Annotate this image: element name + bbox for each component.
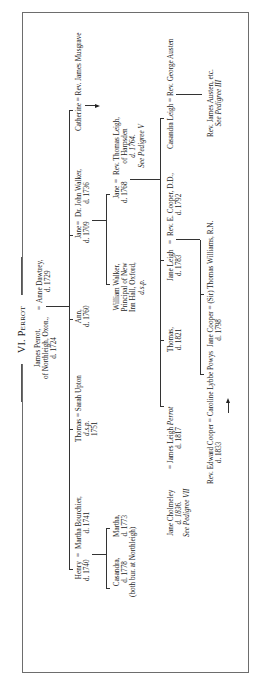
pedigree-page: VI. Perrot James Perrot, of Northleigh, … [0,0,262,697]
person-thomas-perrot: Thomas = Sarah Upton d.s.p. 1751 [75,375,100,442]
arrow-down-icon [95,104,100,108]
person-rev-james-austen: Rev. James Austen, etc. See Pedigree III [207,69,223,137]
connector-gen1-drop [46,306,69,307]
person-james-leigh-perrot: = James Leigh Perrot d. 1817 [167,407,183,469]
connector-jane-walker [69,235,73,236]
page-title: VI. Perrot [16,302,27,357]
connector-henry-drop [92,554,106,555]
connector-cooper-children-bar [200,240,201,375]
marriage-sign-henry-martha: = [75,553,83,557]
connector-edward-cooper-descent [228,403,229,413]
connector-walker-children-bar [106,195,107,285]
person-dr-john-walker: Dr. John Walker, d. 1736 [75,169,91,217]
connector-casandra-leigh [160,118,164,119]
connector-martha [106,528,110,529]
connector-leigh-drop [130,179,160,180]
person-jane-leigh-senior: Jane d. 1768 [113,181,129,203]
connector-gen2-sibling-bar [69,111,70,570]
person-anne-dawtrey: Anne Dawtrey, d. 1729 [36,260,52,303]
person-henry: Henry d. 1740 [75,559,91,581]
connector-jane-leigh [160,260,164,261]
connector-thomas [69,429,73,430]
person-martha-bourchier: Martha Bourchier, d. 1741 [75,496,91,549]
person-ann: Ann, d. 1760 [75,305,91,327]
person-jane-cholmeley: Jane Cholmeley d. 1836. See Pedigree VII [167,489,192,537]
connector-henry [69,569,73,570]
connector-ann [69,319,73,320]
marriage-sign-perrot-dawtrey: = [36,306,44,310]
title-rule-right [21,257,22,295]
person-rev-e-cooper: Rev. E. Cooper, D.D., d. 1792 [167,173,183,236]
connector-leigh-children-bar [160,119,161,407]
person-martha-perrot: Martha, d. 1773 [113,514,129,537]
person-casandra-perrot: Casandra, d. 1778 (both bur. at Northlei… [113,527,138,617]
connector-henry-children-bar [106,529,107,589]
marriage-sign-jane-leigh-cooper: = [167,240,175,244]
connector-catherine [69,110,73,111]
arrow-right-icon [226,398,230,403]
person-james-perrot: James Perrot, of Northleigh, Oxon., d. 1… [34,317,59,379]
connector-walker-drop [92,220,106,221]
person-jane-leigh: Jane Leigh d. 1783 [167,250,183,281]
connector-jane-leigh-senior [106,194,110,195]
marriage-sign-jane-thomas-leigh: = [113,179,121,183]
title-rule-left [21,364,22,402]
connector-james-leigh-perrot [160,406,164,407]
person-casandra-leigh: Casandra Leigh = Rev. George Austen [167,39,175,149]
person-catherine: Catherine = Rev. James Musgrave [75,33,83,131]
connector-catherine-descent [85,105,95,106]
connector-thomas-leigh [160,340,164,341]
person-william-walker: William Walker, Principal of New Inn Hal… [113,262,146,312]
connector-jane-cooper [200,294,204,295]
connector-rev-edward-cooper [200,374,204,375]
connector-william-walker [106,284,110,285]
connector-austen-drop [176,94,202,95]
person-thomas-leigh: Thomas, d. 1821 [167,327,183,352]
person-rev-edward-cooper: Rev. Edward Cooper = Caroline Lybbe Powy… [207,351,223,484]
person-jane-cooper: Jane Cooper = (Sir) Thomas Williams, R.N… [207,221,223,347]
person-rev-thomas-leigh: Rev. Thomas Leigh, of Harpsden d. 1764. … [113,117,146,175]
connector-cooper-drop [176,239,200,240]
connector-casandra [106,588,110,589]
marriage-sign-jane-walker: = [75,221,83,225]
connector-austen-tick [182,94,183,95]
title-container: VI. Perrot [13,295,29,364]
